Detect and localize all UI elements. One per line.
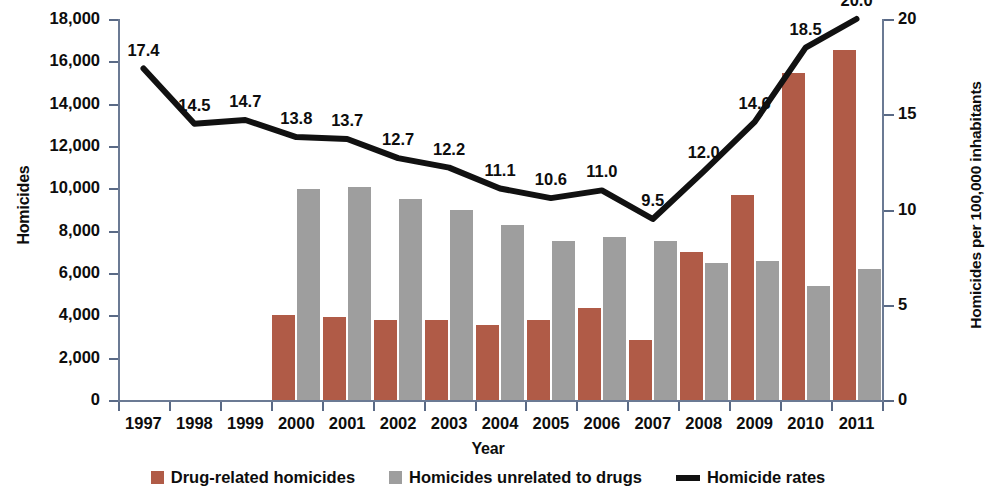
y-axis-right-tick-mark [884,19,894,21]
data-label-2011: 20.0 [829,0,885,10]
x-axis-tick-mark [882,402,884,411]
legend-square-swatch-icon [389,471,402,484]
bar-drug-related-2006 [578,308,601,400]
y-axis-right-title: Homicides per 100,000 inhabitants [967,55,985,355]
legend-item-2[interactable]: Homicide rates [676,468,825,487]
y-axis-right-tick-mark [884,400,894,402]
y-axis-left-tick-mark [109,19,118,21]
x-axis-tick-mark [831,402,833,411]
y-axis-left-tick-mark [109,61,118,63]
x-axis-tick-mark [373,402,375,411]
bar-unrelated-2002 [399,199,422,400]
y-axis-right-tick-label: 20 [898,9,948,28]
x-axis-tick-mark [729,402,731,411]
bar-unrelated-2008 [705,263,728,400]
bar-drug-related-2005 [527,320,550,400]
y-axis-left-tick-label: 6,000 [10,263,100,282]
y-axis-right-tick-label: 0 [898,390,948,409]
x-axis-tick-mark [475,402,477,411]
bar-unrelated-2001 [348,187,371,400]
bar-unrelated-2006 [603,237,626,400]
bar-drug-related-2001 [323,317,346,400]
x-axis-tick-mark [220,402,222,411]
bar-unrelated-2003 [450,210,473,401]
y-axis-left-tick-mark [109,358,118,360]
data-label-1997: 17.4 [115,41,171,60]
bar-drug-related-2009 [731,195,754,400]
y-axis-left-tick-mark [109,273,118,275]
bar-drug-related-2008 [680,252,703,400]
x-axis-tick-mark [627,402,629,411]
data-label-2004: 11.1 [472,161,528,180]
data-label-1998: 14.5 [166,96,222,115]
data-label-2003: 12.2 [421,140,477,159]
legend-item-0[interactable]: Drug-related homicides [151,468,355,487]
y-axis-left-tick-label: 18,000 [10,9,100,28]
bar-unrelated-2000 [297,189,320,400]
bar-drug-related-2011 [833,50,856,400]
legend-line-swatch-icon [676,475,700,481]
data-label-2009: 14.6 [727,94,783,113]
y-axis-right-tick-mark [884,210,894,212]
y-axis-left-tick-mark [109,104,118,106]
data-label-2008: 12.0 [676,143,732,162]
x-axis-tick-mark [576,402,578,411]
y-axis-left-tick-label: 0 [10,390,100,409]
y-axis-left-tick-label: 4,000 [10,305,100,324]
bar-unrelated-2010 [807,286,830,400]
bar-unrelated-2004 [501,225,524,400]
x-axis-tick-mark [525,402,527,411]
legend-label: Homicides unrelated to drugs [409,468,642,487]
y-axis-left-tick-mark [109,146,118,148]
data-label-2007: 9.5 [625,191,681,210]
x-axis-tick-mark [169,402,171,411]
x-axis-tick-label: 2011 [825,414,889,433]
y-axis-left-tick-label: 10,000 [10,178,100,197]
x-axis-tick-mark [322,402,324,411]
chart-legend: Drug-related homicidesHomicides unrelate… [0,468,976,487]
bar-unrelated-2011 [858,269,881,400]
x-axis-tick-mark [678,402,680,411]
y-axis-left-tick-mark [109,231,118,233]
legend-square-swatch-icon [151,471,164,484]
y-axis-left-tick-mark [109,400,118,402]
x-axis-title: Year [0,440,976,458]
y-axis-right-tick-label: 5 [898,295,948,314]
bar-unrelated-2009 [756,261,779,400]
y-axis-left-tick-label: 2,000 [10,348,100,367]
bar-drug-related-2003 [425,320,448,400]
y-axis-right-tick-mark [884,305,894,307]
y-axis-left-tick-label: 8,000 [10,221,100,240]
y-axis-left-tick-label: 12,000 [10,136,100,155]
y-axis-left-line [118,19,120,401]
y-axis-right-tick-label: 10 [898,200,948,219]
legend-label: Homicide rates [707,468,825,487]
data-label-2001: 13.7 [319,111,375,130]
data-label-2002: 12.7 [370,130,426,149]
bar-drug-related-2007 [629,340,652,400]
data-label-2006: 11.0 [574,162,630,181]
bar-drug-related-2010 [782,73,805,400]
y-axis-left-title: Homicides [15,95,33,315]
legend-label: Drug-related homicides [171,468,355,487]
data-label-2005: 10.6 [523,170,579,189]
y-axis-left-tick-label: 14,000 [10,94,100,113]
x-axis-tick-mark [118,402,120,411]
x-axis-tick-mark [271,402,273,411]
y-axis-right-tick-label: 15 [898,104,948,123]
bar-drug-related-2000 [272,315,295,400]
data-label-2010: 18.5 [778,20,834,39]
x-axis-line [118,400,884,402]
bar-drug-related-2002 [374,320,397,400]
x-axis-tick-mark [424,402,426,411]
legend-item-1[interactable]: Homicides unrelated to drugs [389,468,642,487]
y-axis-right-tick-mark [884,114,894,116]
bar-unrelated-2007 [654,241,677,400]
homicide-rate-line [144,19,857,219]
y-axis-left-tick-mark [109,188,118,190]
bar-unrelated-2005 [552,241,575,400]
data-label-2000: 13.8 [268,109,324,128]
y-axis-left-tick-label: 16,000 [10,51,100,70]
y-axis-left-tick-mark [109,315,118,317]
